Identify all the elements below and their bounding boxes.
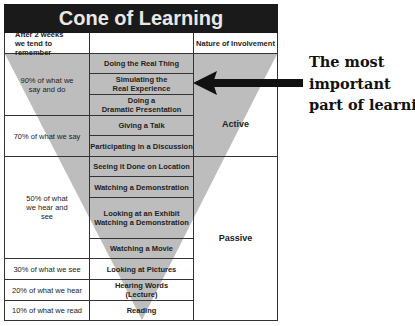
involvement-passive-label: Passive <box>219 234 253 243</box>
activity-label: Hearing Words <box>115 281 168 290</box>
involvement-active: Active <box>194 54 277 156</box>
activity-label: Dramatic Presentation <box>102 105 182 114</box>
callout-line-1: The most <box>309 51 415 73</box>
header-involvement-label: Nature of Involvement <box>196 39 275 48</box>
activity-movie: Watching a Movie <box>90 239 193 258</box>
retention-50-label: 50% of what we hear and see <box>22 194 72 221</box>
header-retention-label: After 2 weeks we tend to remember <box>15 30 75 57</box>
activity-label: Simulating the <box>116 75 168 84</box>
activity-label: Giving a Talk <box>118 121 164 130</box>
retention-50: 50% of what we hear and see <box>5 157 89 258</box>
activity-location: Seeing it Done on Location <box>90 157 193 176</box>
activity-label: Seeing it Done on Location <box>93 162 190 171</box>
retention-70-label: 70% of what we say <box>14 132 81 141</box>
activity-pictures: Looking at Pictures <box>90 259 193 279</box>
activity-dramatic-presentation: Doing a Dramatic Presentation <box>90 95 193 115</box>
activity-label: Participating in a Discussion <box>90 142 193 151</box>
callout-text: The most important part of learning <box>309 51 415 116</box>
retention-20: 20% of what we hear <box>5 280 89 300</box>
header-retention: After 2 weeks we tend to remember <box>5 33 89 53</box>
activity-label: Doing the Real Thing <box>104 59 179 68</box>
involvement-passive: Passive <box>194 157 277 320</box>
activity-giving-talk: Giving a Talk <box>90 116 193 135</box>
callout-line-2: important <box>309 73 415 95</box>
activity-reading: Reading <box>90 301 193 320</box>
involvement-active-label: Active <box>222 120 249 129</box>
activity-label: Watching a Demonstration <box>94 218 189 227</box>
activity-doing-real-thing: Doing the Real Thing <box>90 54 193 73</box>
callout-line-3: part of learning <box>309 94 415 116</box>
activity-label: Real Experience <box>113 84 171 93</box>
activity-discussion: Participating in a Discussion <box>90 136 193 156</box>
activity-label: Looking at an Exhibit <box>104 209 180 218</box>
retention-90: 90% of what we say and do <box>5 54 89 115</box>
activity-label: (Lecture) <box>125 290 157 299</box>
activity-label: Looking at Pictures <box>107 265 177 274</box>
activity-lecture: Hearing Words (Lecture) <box>90 280 193 300</box>
retention-20-label: 20% of what we hear <box>12 286 82 295</box>
activity-label: Watching a Demonstration <box>94 183 189 192</box>
header-involvement: Nature of Involvement <box>194 33 277 53</box>
activity-label: Doing a <box>128 96 156 105</box>
retention-30-label: 30% of what we see <box>13 265 80 274</box>
activity-demonstration: Watching a Demonstration <box>90 177 193 197</box>
retention-90-label: 90% of what we say and do <box>17 76 77 94</box>
retention-30: 30% of what we see <box>5 259 89 279</box>
activity-exhibit: Looking at an Exhibit Watching a Demonst… <box>90 198 193 238</box>
retention-10: 10% of what we read <box>5 301 89 320</box>
retention-70: 70% of what we say <box>5 116 89 156</box>
activity-label: Watching a Movie <box>110 244 173 253</box>
retention-10-label: 10% of what we read <box>12 306 82 315</box>
activity-simulating: Simulating the Real Experience <box>90 74 193 94</box>
activity-label: Reading <box>127 306 157 315</box>
